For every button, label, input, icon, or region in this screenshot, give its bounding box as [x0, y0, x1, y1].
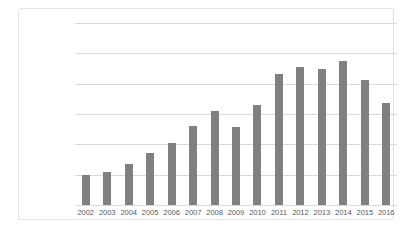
bar	[275, 74, 283, 205]
x-axis-tick-label: 2005	[139, 209, 160, 217]
x-axis-tick-label: 2010	[247, 209, 268, 217]
bar	[253, 105, 261, 205]
x-axis-tick-label: 2016	[376, 209, 397, 217]
x-axis-tick-label: 2011	[268, 209, 289, 217]
x-axis-tick-label: 2009	[225, 209, 246, 217]
x-axis-tick-label: 2002	[75, 209, 96, 217]
bar-chart: 0100000002000000030000000400000005000000…	[0, 0, 412, 236]
bar	[103, 172, 111, 205]
gridline	[75, 205, 397, 206]
bar	[232, 127, 240, 205]
x-axis-tick-label: 2004	[118, 209, 139, 217]
chart-frame: 0100000002000000030000000400000005000000…	[18, 8, 394, 220]
x-axis-tick-label: 2012	[290, 209, 311, 217]
x-axis-tick-label: 2015	[354, 209, 375, 217]
bar	[168, 143, 176, 205]
bar	[339, 61, 347, 205]
x-axis-tick-labels: 2002200320042005200620072008200920102011…	[75, 209, 397, 223]
bar	[361, 80, 369, 205]
x-axis-tick-label: 2003	[96, 209, 117, 217]
bar	[125, 164, 133, 205]
x-axis-tick-label: 2013	[311, 209, 332, 217]
plot-area: 0100000002000000030000000400000005000000…	[75, 23, 397, 205]
bar	[189, 126, 197, 205]
bar	[82, 175, 90, 205]
bar	[146, 153, 154, 205]
bars	[75, 23, 397, 205]
x-axis-tick-label: 2006	[161, 209, 182, 217]
x-axis-tick-label: 2007	[182, 209, 203, 217]
bar	[382, 103, 390, 205]
bar	[211, 111, 219, 205]
x-axis-tick-label: 2014	[333, 209, 354, 217]
x-axis-tick-label: 2008	[204, 209, 225, 217]
bar	[296, 67, 304, 205]
bar	[318, 69, 326, 206]
